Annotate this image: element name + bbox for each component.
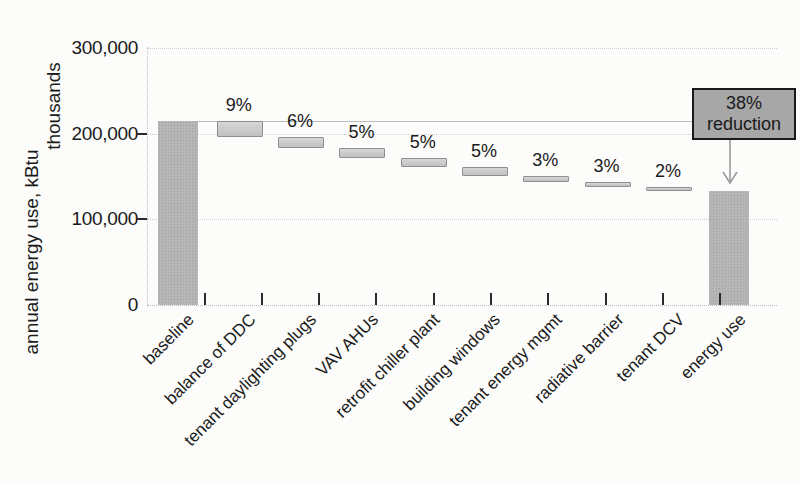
x-axis-tick [605, 293, 607, 305]
reduction-annotation-line2: reduction [707, 114, 781, 135]
pct-label-retrofit-chiller-plant: 5% [410, 132, 436, 153]
bar-energy-use [709, 191, 749, 305]
pct-label-tenant-dcv: 2% [655, 161, 681, 182]
x-label-tenant-energy-mgmt: tenant energy mgmt [445, 310, 566, 431]
x-axis-line [147, 305, 777, 306]
bar-baseline [158, 121, 198, 305]
y-axis-tick [137, 133, 147, 135]
y-axis-line [147, 47, 148, 305]
bar-retrofit-chiller-plant [401, 158, 447, 167]
y-tick-label-100000: 100,000 [54, 208, 138, 230]
x-axis-tick [490, 293, 492, 305]
bar-balance-of-ddc [217, 121, 263, 138]
gridline-300000 [147, 48, 777, 49]
x-axis-tick [547, 293, 549, 305]
reduction-annotation-box: 38% reduction [692, 88, 796, 140]
waterfall-chart: thousands annual energy use, kBtu 0100,0… [0, 0, 801, 485]
x-axis-tick [375, 293, 377, 305]
pct-label-tenant-energy-mgmt: 3% [532, 150, 558, 171]
reduction-annotation-line1: 38% [726, 93, 762, 114]
pct-label-radiative-barrier: 3% [594, 156, 620, 177]
x-axis-tick [204, 293, 206, 305]
bar-radiative-barrier [585, 182, 631, 188]
y-axis-tick [137, 218, 147, 220]
y-tick-label-200000: 200,000 [54, 123, 138, 145]
x-axis-tick [318, 293, 320, 305]
bar-building-windows [462, 167, 508, 176]
x-axis-tick [261, 293, 263, 305]
x-axis-tick [719, 293, 721, 305]
gridline-100000 [147, 219, 777, 220]
pct-label-tenant-daylighting-plugs: 6% [287, 111, 313, 132]
y-tick-label-0: 0 [54, 294, 138, 316]
pct-label-balance-of-ddc: 9% [226, 95, 252, 116]
y-axis-title: annual energy use, kBtu [21, 150, 43, 355]
bar-vav-ahus [339, 148, 385, 157]
x-label-baseline: baseline [140, 310, 199, 369]
pct-label-building-windows: 5% [471, 141, 497, 162]
down-arrow-icon [718, 139, 742, 189]
x-axis-tick [433, 293, 435, 305]
y-tick-label-300000: 300,000 [54, 37, 138, 59]
bar-tenant-daylighting-plugs [278, 137, 324, 148]
x-label-energy-use: energy use [677, 310, 751, 384]
bar-tenant-energy-mgmt [523, 176, 569, 182]
pct-label-vav-ahus: 5% [348, 122, 374, 143]
x-axis-tick [662, 293, 664, 305]
bar-tenant-dcv [646, 187, 692, 191]
x-label-retrofit-chiller-plant: retrofit chiller plant [331, 310, 443, 422]
